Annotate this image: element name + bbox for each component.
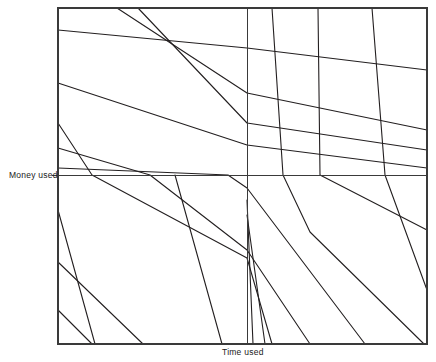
plot-area-background	[58, 8, 427, 344]
quadrant-contour-chart	[0, 0, 436, 362]
x-axis-label: Time used	[222, 348, 264, 357]
y-axis-label: Money used	[9, 171, 58, 180]
figure-container: Money used Time used	[0, 0, 436, 362]
